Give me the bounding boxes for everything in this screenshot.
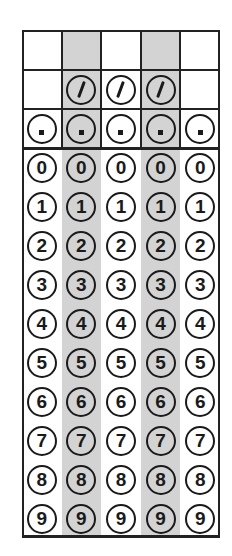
digit-bubble-5[interactable]: 5 <box>66 348 96 378</box>
digit-bubble-0[interactable]: 0 <box>185 153 215 183</box>
grid-line <box>61 30 63 148</box>
digit-cell: 2 <box>180 226 220 265</box>
decimal-point-bubble[interactable] <box>185 114 215 144</box>
digit-bubble-1[interactable]: 1 <box>106 192 136 222</box>
digit-bubble-9[interactable]: 9 <box>146 504 176 534</box>
digit-bubble-3[interactable]: 3 <box>146 270 176 300</box>
grid-line <box>22 535 220 538</box>
dot-cell <box>62 109 102 148</box>
digit-cell: 0 <box>141 148 181 187</box>
digit-bubble-8[interactable]: 8 <box>27 465 57 495</box>
digit-bubble-6[interactable]: 6 <box>185 387 215 417</box>
digit-bubble-8[interactable]: 8 <box>66 465 96 495</box>
digit-bubble-6[interactable]: 6 <box>146 387 176 417</box>
digit-cell: 3 <box>180 265 220 304</box>
digit-bubble-4[interactable]: 4 <box>146 309 176 339</box>
digit-bubble-5[interactable]: 5 <box>146 348 176 378</box>
digit-bubble-2[interactable]: 2 <box>66 231 96 261</box>
grid-line <box>140 30 142 148</box>
digit-bubble-9[interactable]: 9 <box>185 504 215 534</box>
digit-bubble-3[interactable]: 3 <box>66 270 96 300</box>
digit-bubble-3[interactable]: 3 <box>106 270 136 300</box>
slash-cell <box>62 70 102 109</box>
digit-cell: 3 <box>62 265 102 304</box>
digit-bubble-2[interactable]: 2 <box>106 231 136 261</box>
digit-cell: 5 <box>180 343 220 382</box>
digit-bubble-1[interactable]: 1 <box>146 192 176 222</box>
digit-bubble-6[interactable]: 6 <box>66 387 96 417</box>
digit-bubble-0[interactable]: 0 <box>106 153 136 183</box>
decimal-point-bubble[interactable] <box>66 114 96 144</box>
digit-bubble-1[interactable]: 1 <box>27 192 57 222</box>
digit-bubble-1[interactable]: 1 <box>66 192 96 222</box>
digit-bubble-8[interactable]: 8 <box>146 465 176 495</box>
digit-bubble-2[interactable]: 2 <box>146 231 176 261</box>
digit-bubble-6[interactable]: 6 <box>27 387 57 417</box>
digit-bubble-7[interactable]: 7 <box>66 426 96 456</box>
digit-bubble-7[interactable]: 7 <box>185 426 215 456</box>
digit-bubble-8[interactable]: 8 <box>106 465 136 495</box>
digit-cell: 7 <box>22 421 62 460</box>
digit-cell: 7 <box>180 421 220 460</box>
slash-cell <box>101 70 141 109</box>
digit-cell: 9 <box>62 499 102 538</box>
digit-bubble-4[interactable]: 4 <box>27 309 57 339</box>
slash-icon <box>117 81 126 98</box>
digit-cell: 8 <box>141 460 181 499</box>
digit-bubble-1[interactable]: 1 <box>185 192 215 222</box>
digit-cell: 7 <box>62 421 102 460</box>
digit-bubble-9[interactable]: 9 <box>27 504 57 534</box>
digit-bubble-2[interactable]: 2 <box>185 231 215 261</box>
digit-cell: 0 <box>22 148 62 187</box>
digit-bubble-9[interactable]: 9 <box>106 504 136 534</box>
digit-bubble-7[interactable]: 7 <box>27 426 57 456</box>
grid-line <box>22 147 220 150</box>
decimal-point-bubble[interactable] <box>27 114 57 144</box>
answer-box[interactable] <box>22 30 62 70</box>
digit-cell: 5 <box>62 343 102 382</box>
digit-cell: 4 <box>62 304 102 343</box>
digit-bubble-0[interactable]: 0 <box>146 153 176 183</box>
grid-line <box>22 30 220 32</box>
digit-bubble-5[interactable]: 5 <box>27 348 57 378</box>
grid-line <box>218 30 220 538</box>
answer-box[interactable] <box>101 30 141 70</box>
slash-icon <box>77 81 86 98</box>
answer-box[interactable] <box>180 30 220 70</box>
digit-cell: 2 <box>62 226 102 265</box>
grid-line <box>22 69 220 71</box>
decimal-point-bubble[interactable] <box>146 114 176 144</box>
digit-bubble-4[interactable]: 4 <box>185 309 215 339</box>
slash-bubble[interactable] <box>146 75 176 105</box>
digit-cell: 9 <box>22 499 62 538</box>
digit-bubble-6[interactable]: 6 <box>106 387 136 417</box>
answer-box[interactable] <box>62 30 102 70</box>
digit-cell: 6 <box>141 382 181 421</box>
digit-cell: 6 <box>22 382 62 421</box>
digit-bubble-2[interactable]: 2 <box>27 231 57 261</box>
digit-cell: 8 <box>180 460 220 499</box>
digit-bubble-8[interactable]: 8 <box>185 465 215 495</box>
digit-cell: 0 <box>180 148 220 187</box>
digit-bubble-0[interactable]: 0 <box>27 153 57 183</box>
dot-cell <box>22 109 62 148</box>
digit-cell: 4 <box>141 304 181 343</box>
digit-bubble-4[interactable]: 4 <box>66 309 96 339</box>
digit-bubble-5[interactable]: 5 <box>106 348 136 378</box>
digit-cell: 1 <box>22 187 62 226</box>
answer-box[interactable] <box>141 30 181 70</box>
digit-cell: 8 <box>101 460 141 499</box>
digit-bubble-3[interactable]: 3 <box>185 270 215 300</box>
digit-bubble-7[interactable]: 7 <box>106 426 136 456</box>
digit-bubble-5[interactable]: 5 <box>185 348 215 378</box>
slash-bubble[interactable] <box>106 75 136 105</box>
digit-bubble-7[interactable]: 7 <box>146 426 176 456</box>
decimal-point-bubble[interactable] <box>106 114 136 144</box>
digit-bubble-0[interactable]: 0 <box>66 153 96 183</box>
slash-bubble[interactable] <box>66 75 96 105</box>
digit-bubble-9[interactable]: 9 <box>66 504 96 534</box>
digit-bubble-3[interactable]: 3 <box>27 270 57 300</box>
digit-bubble-4[interactable]: 4 <box>106 309 136 339</box>
digit-cell: 7 <box>141 421 181 460</box>
digit-cell: 9 <box>101 499 141 538</box>
